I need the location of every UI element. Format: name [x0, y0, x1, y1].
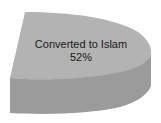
- slice-percent: 52%: [6, 51, 156, 63]
- slice-label: Converted to Islam: [6, 38, 156, 50]
